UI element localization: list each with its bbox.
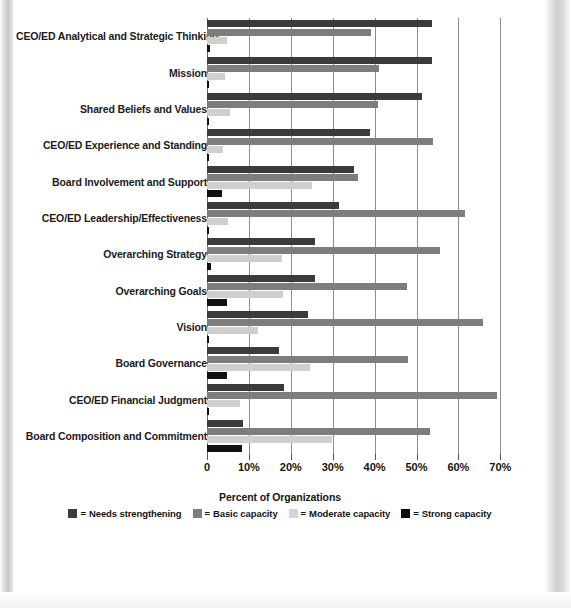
axis-tick bbox=[458, 454, 459, 460]
bar bbox=[207, 109, 230, 116]
bar bbox=[207, 392, 497, 399]
category-label: Mission bbox=[16, 67, 207, 78]
bar bbox=[207, 356, 408, 363]
category-axis-labels: CEO/ED Analytical and Strategic Thinking… bbox=[16, 18, 207, 454]
category-label: Overarching Strategy bbox=[16, 249, 207, 260]
legend-swatch-icon bbox=[289, 509, 298, 518]
value-axis-title: Percent of Organizations bbox=[16, 491, 544, 503]
bar bbox=[207, 291, 283, 298]
legend-equals-sign: = bbox=[80, 508, 85, 519]
bar bbox=[207, 37, 227, 44]
bar bbox=[207, 299, 227, 306]
bar bbox=[207, 327, 258, 334]
bar-chart-figure: CEO/ED Analytical and Strategic Thinking… bbox=[16, 4, 544, 574]
bar bbox=[207, 238, 315, 245]
bar bbox=[207, 174, 358, 181]
bar bbox=[207, 118, 209, 125]
gridline-20 bbox=[291, 18, 292, 454]
axis-tick-label: 60% bbox=[447, 461, 469, 473]
bar bbox=[207, 182, 312, 189]
axis-tick-label: 10% bbox=[238, 461, 260, 473]
category-label: Board Composition and Commitment bbox=[16, 430, 207, 441]
bar bbox=[207, 129, 370, 136]
legend-item: =Moderate capacity bbox=[289, 508, 391, 519]
legend-block: Percent of Organizations =Needs strength… bbox=[16, 491, 544, 519]
axis-tick-label: 20% bbox=[280, 461, 302, 473]
category-label: CEO/ED Leadership/Effectiveness bbox=[16, 212, 207, 223]
page-edge-left-shadow bbox=[0, 0, 14, 608]
bar bbox=[207, 101, 378, 108]
plot-area: CEO/ED Analytical and Strategic Thinking… bbox=[16, 18, 526, 454]
bar bbox=[207, 20, 432, 27]
bar bbox=[207, 400, 240, 407]
bar bbox=[207, 93, 422, 100]
bar bbox=[207, 65, 379, 72]
legend-equals-sign: = bbox=[301, 508, 306, 519]
gridline-50 bbox=[417, 18, 418, 454]
legend-equals-sign: = bbox=[205, 508, 210, 519]
legend-swatch-icon bbox=[193, 509, 202, 518]
bar bbox=[207, 283, 407, 290]
gridline-70 bbox=[500, 18, 501, 454]
bar bbox=[207, 255, 282, 262]
legend-item: =Needs strengthening bbox=[68, 508, 181, 519]
bar bbox=[207, 347, 279, 354]
bar bbox=[207, 408, 209, 415]
scanned-page: CEO/ED Analytical and Strategic Thinking… bbox=[0, 0, 571, 608]
axis-tick bbox=[291, 454, 292, 460]
bar bbox=[207, 138, 433, 145]
bar bbox=[207, 336, 209, 343]
axis-tick bbox=[249, 454, 250, 460]
bar bbox=[207, 247, 440, 254]
legend-label: Needs strengthening bbox=[89, 508, 182, 519]
bar bbox=[207, 29, 371, 36]
page-edge-bottom-shadow bbox=[0, 592, 571, 608]
bars-canvas bbox=[207, 18, 526, 454]
bar bbox=[207, 384, 284, 391]
axis-tick bbox=[500, 454, 501, 460]
bar bbox=[207, 190, 222, 197]
bar bbox=[207, 428, 430, 435]
axis-tick-label: 0 bbox=[204, 461, 210, 473]
bar bbox=[207, 436, 332, 443]
bar bbox=[207, 445, 242, 452]
axis-tick bbox=[375, 454, 376, 460]
bar bbox=[207, 275, 315, 282]
legend: =Needs strengthening=Basic capacity=Mode… bbox=[16, 508, 544, 519]
legend-swatch-icon bbox=[68, 509, 77, 518]
axis-tick-label: 30% bbox=[322, 461, 344, 473]
bar bbox=[207, 372, 227, 379]
category-label: Vision bbox=[16, 321, 207, 332]
legend-item: =Strong capacity bbox=[401, 508, 491, 519]
bar bbox=[207, 218, 228, 225]
category-label: CEO/ED Analytical and Strategic Thinking bbox=[16, 31, 207, 42]
category-label: Board Governance bbox=[16, 358, 207, 369]
legend-label: Moderate capacity bbox=[309, 508, 390, 519]
bar bbox=[207, 420, 243, 427]
axis-tick bbox=[333, 454, 334, 460]
legend-item: =Basic capacity bbox=[193, 508, 278, 519]
bar bbox=[207, 202, 339, 209]
axis-tick bbox=[207, 454, 208, 460]
category-label: CEO/ED Financial Judgment bbox=[16, 394, 207, 405]
bar bbox=[207, 57, 432, 64]
page-edge-right-shadow bbox=[545, 0, 571, 608]
legend-swatch-icon bbox=[401, 509, 410, 518]
legend-equals-sign: = bbox=[413, 508, 418, 519]
category-label: Shared Beliefs and Values bbox=[16, 103, 207, 114]
bar bbox=[207, 73, 225, 80]
axis-tick bbox=[417, 454, 418, 460]
gridline-60 bbox=[458, 18, 459, 454]
bar bbox=[207, 364, 310, 371]
legend-label: Strong capacity bbox=[422, 508, 492, 519]
gridline-30 bbox=[333, 18, 334, 454]
legend-label: Basic capacity bbox=[213, 508, 278, 519]
category-label: Overarching Goals bbox=[16, 285, 207, 296]
bar bbox=[207, 210, 465, 217]
axis-tick-label: 50% bbox=[405, 461, 427, 473]
value-axis: 010%20%30%40%50%60%70% bbox=[207, 454, 526, 478]
bar bbox=[207, 311, 308, 318]
axis-tick-label: 40% bbox=[364, 461, 386, 473]
bar bbox=[207, 263, 211, 270]
bar bbox=[207, 166, 354, 173]
